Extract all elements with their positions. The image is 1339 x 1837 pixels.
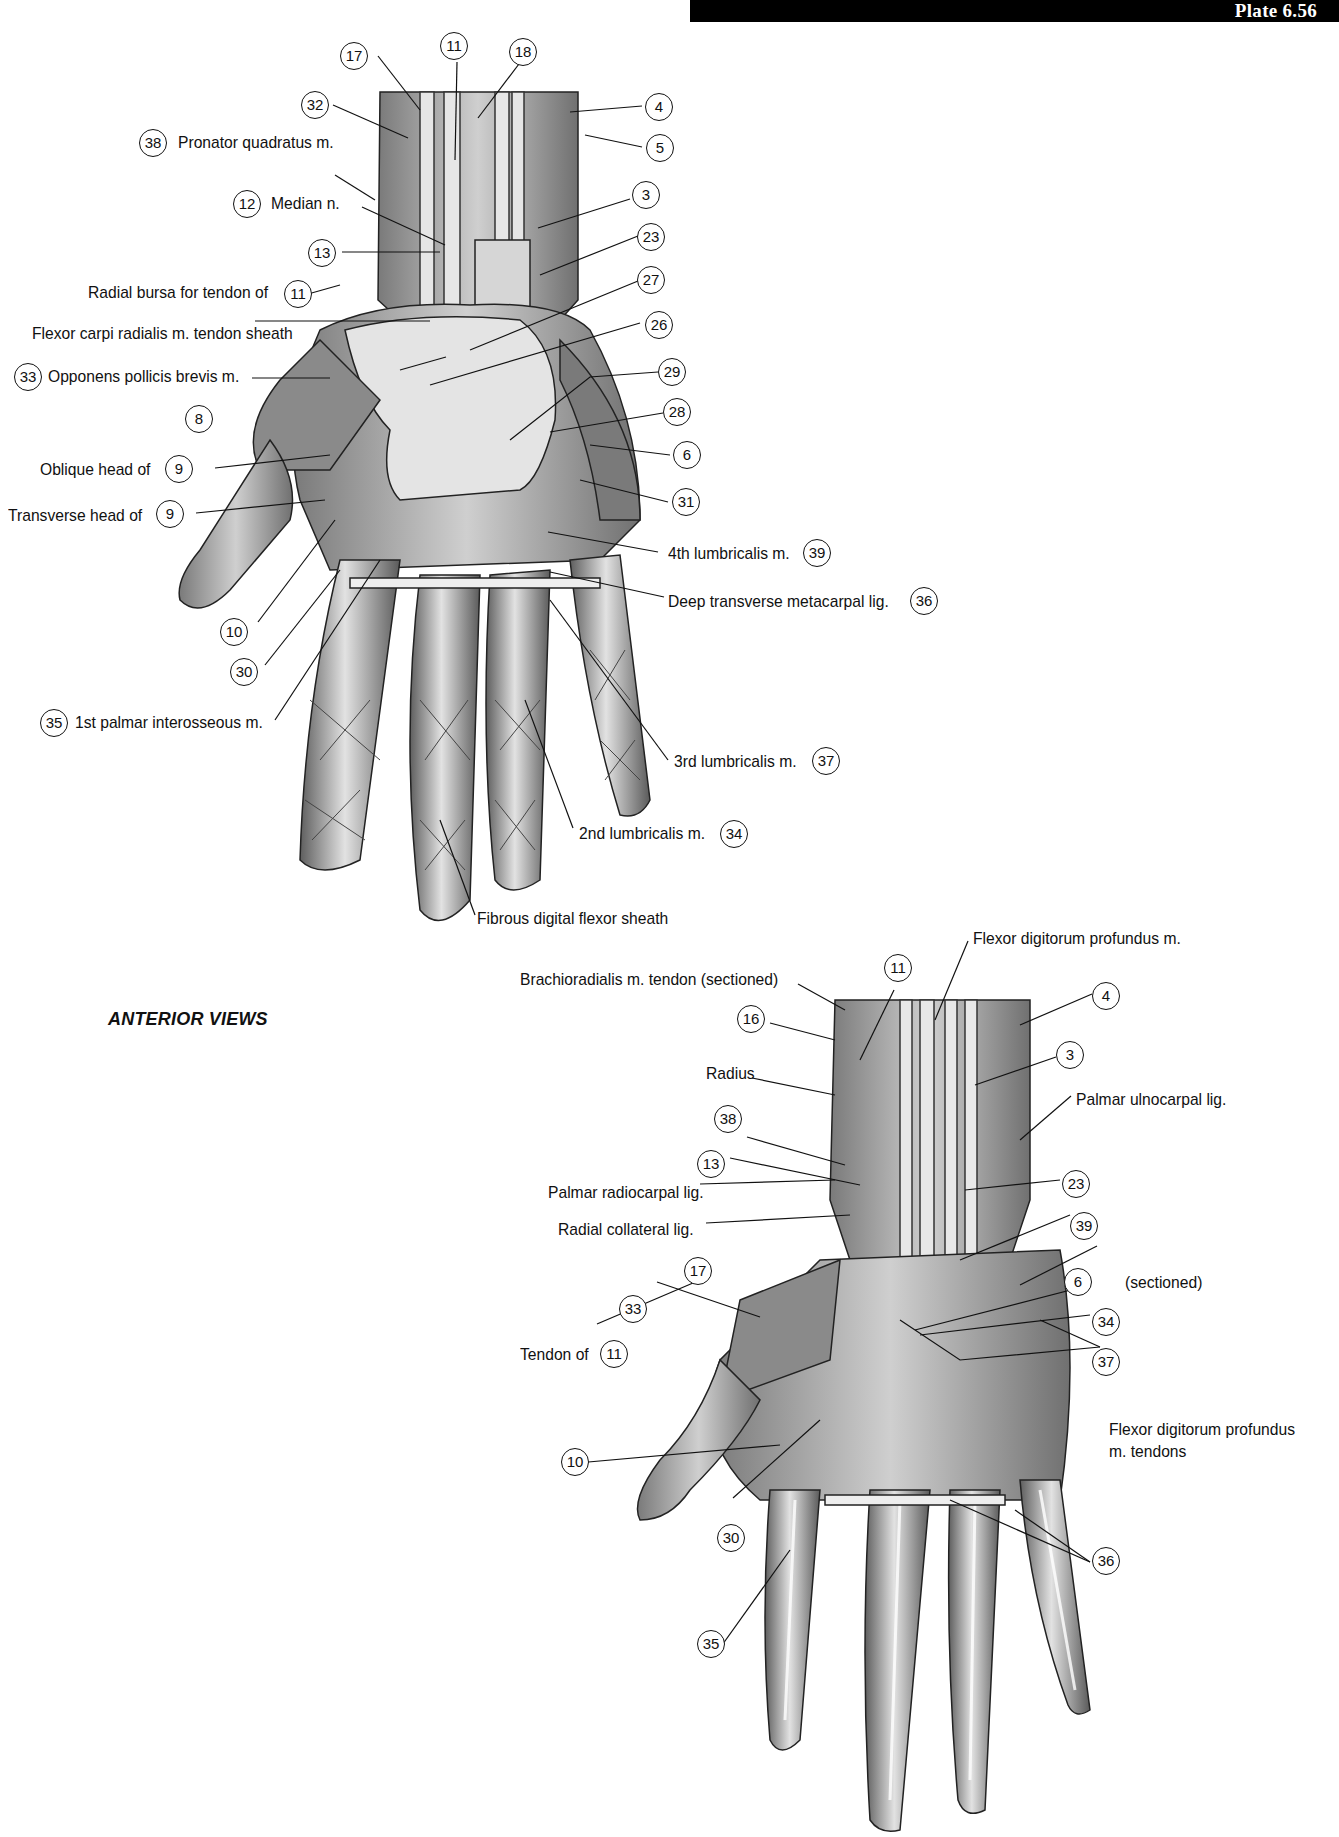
label-palmar-ulnocarpal: Palmar ulnocarpal lig. — [1076, 1090, 1226, 1110]
callout-6-sectioned: 6 — [1064, 1268, 1092, 1296]
callout-33-lower: 33 — [619, 1295, 647, 1323]
callout-9-transverse: 9 — [156, 500, 184, 528]
callout-23-lower: 23 — [1062, 1170, 1090, 1198]
callout-9-oblique: 9 — [165, 455, 193, 483]
callout-6: 6 — [673, 441, 701, 469]
label-fdp-tendons-line1: Flexor digitorum profundus — [1109, 1420, 1295, 1440]
label-3rd-lumbricalis: 3rd lumbricalis m. — [674, 752, 797, 772]
label-deep-transverse-metacarpal: Deep transverse metacarpal lig. — [668, 592, 889, 612]
callout-3: 3 — [632, 181, 660, 209]
callout-34: 34 — [720, 820, 748, 848]
callout-10: 10 — [220, 618, 248, 646]
callout-16: 16 — [737, 1005, 765, 1033]
callout-11: 11 — [440, 32, 468, 60]
label-brachioradialis-tendon: Brachioradialis m. tendon (sectioned) — [520, 970, 778, 990]
callout-23: 23 — [637, 223, 665, 251]
callout-11-lower: 11 — [884, 954, 912, 982]
callout-35-lower: 35 — [697, 1630, 725, 1658]
callout-17: 17 — [340, 42, 368, 70]
callout-39: 39 — [803, 539, 831, 567]
callout-3-lower: 3 — [1056, 1041, 1084, 1069]
label-oblique-head: Oblique head of — [40, 460, 150, 480]
label-radial-collateral: Radial collateral lig. — [558, 1220, 694, 1240]
label-1st-palmar-interosseous: 1st palmar interosseous m. — [75, 713, 263, 733]
label-fdp-tendons-line2: m. tendons — [1109, 1442, 1186, 1462]
callout-10-lower: 10 — [561, 1448, 589, 1476]
label-radial-bursa: Radial bursa for tendon of — [88, 283, 268, 303]
callout-38: 38 — [139, 129, 167, 157]
callout-29: 29 — [658, 358, 686, 386]
hand-anatomy-illustration — [0, 0, 1339, 1837]
callout-30-lower: 30 — [717, 1524, 745, 1552]
callout-8: 8 — [185, 405, 213, 433]
label-tendon-of: Tendon of — [520, 1345, 589, 1365]
label-fdp-muscle: Flexor digitorum profundus m. — [973, 929, 1181, 949]
label-radius: Radius — [706, 1064, 755, 1084]
callout-17-lower: 17 — [684, 1257, 712, 1285]
callout-5: 5 — [646, 134, 674, 162]
callout-27: 27 — [637, 266, 665, 294]
label-fibrous-digital-flexor-sheath: Fibrous digital flexor sheath — [477, 909, 668, 929]
callout-38-lower: 38 — [714, 1105, 742, 1133]
callout-37: 37 — [812, 747, 840, 775]
callout-33: 33 — [14, 363, 42, 391]
label-transverse-head: Transverse head of — [8, 506, 142, 526]
callout-13-lower: 13 — [697, 1150, 725, 1178]
callout-11-tendon: 11 — [600, 1340, 628, 1368]
label-4th-lumbricalis: 4th lumbricalis m. — [668, 544, 790, 564]
callout-34-lower: 34 — [1092, 1308, 1120, 1336]
label-fcr-tendon-sheath: Flexor carpi radialis m. tendon sheath — [32, 324, 293, 344]
callout-39-lower: 39 — [1070, 1212, 1098, 1240]
callout-26: 26 — [645, 311, 673, 339]
callout-11-bursa: 11 — [284, 280, 312, 308]
label-median-nerve: Median n. — [271, 194, 340, 214]
callout-13: 13 — [308, 239, 336, 267]
label-sectioned: (sectioned) — [1125, 1273, 1202, 1293]
label-palmar-radiocarpal: Palmar radiocarpal lig. — [548, 1183, 704, 1203]
callout-18: 18 — [509, 38, 537, 66]
callout-32: 32 — [301, 91, 329, 119]
callout-30: 30 — [230, 658, 258, 686]
callout-28: 28 — [663, 398, 691, 426]
callout-35: 35 — [40, 709, 68, 737]
callout-12: 12 — [233, 190, 261, 218]
label-pronator-quadratus: Pronator quadratus m. — [178, 133, 334, 153]
callout-4: 4 — [645, 93, 673, 121]
views-caption: ANTERIOR VIEWS — [108, 1009, 268, 1030]
lower-hand — [638, 1000, 1091, 1831]
callout-36-lower: 36 — [1092, 1547, 1120, 1575]
label-opponens-pollicis: Opponens pollicis brevis m. — [48, 367, 239, 387]
callout-37-lower: 37 — [1092, 1348, 1120, 1376]
callout-31: 31 — [672, 488, 700, 516]
callout-4-lower: 4 — [1092, 982, 1120, 1010]
callout-36: 36 — [910, 587, 938, 615]
label-2nd-lumbricalis: 2nd lumbricalis m. — [579, 824, 705, 844]
